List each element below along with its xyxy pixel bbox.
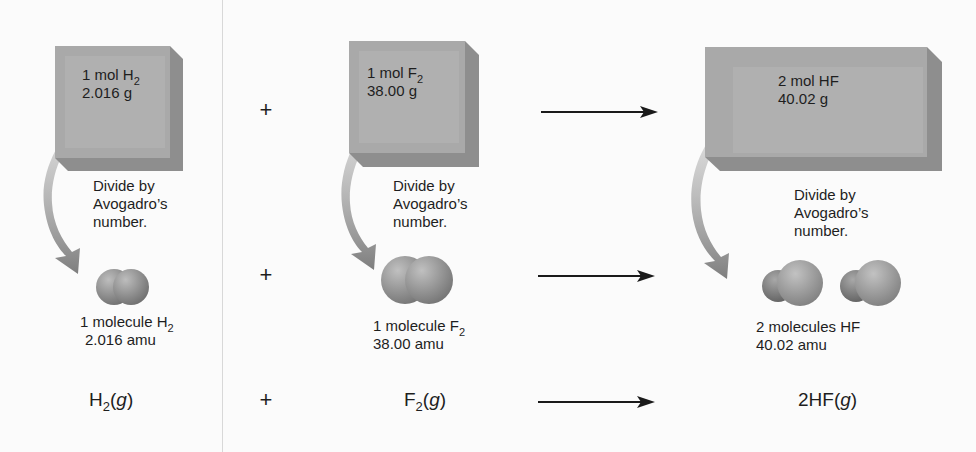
plus-sign-row1: + [256, 99, 276, 121]
plus-sign-row2: + [256, 264, 276, 286]
equation-term-hf: 2HF(g) [798, 389, 857, 411]
divide-note-f2: Divide by Avogadro’s number. [393, 177, 468, 231]
subscript: 2 [134, 75, 140, 87]
molecule-h2-icon [95, 266, 151, 308]
molecule-label-h2: 1 molecule H2 2.016 amu [80, 313, 174, 349]
molecule-mass: 2.016 amu [80, 331, 156, 348]
box-mol-label: 1 mol F [367, 64, 417, 81]
molecule-f2-icon [379, 253, 455, 307]
mole-box-hf: 2 mol HF 40.02 g [705, 47, 942, 171]
subscript: 2 [417, 73, 423, 85]
reaction-arrow-icon-row2 [537, 269, 657, 283]
molecule-mass: 40.02 amu [756, 336, 827, 353]
equation-term-f2: F2(g) [404, 389, 446, 411]
equation-term-h2: H2(g) [89, 389, 133, 411]
plus-sign-row3: + [256, 389, 276, 411]
divide-note-hf: Divide by Avogadro’s number. [794, 186, 869, 240]
box-mass-label: 2.016 g [82, 84, 132, 101]
box-mass-label: 40.02 g [778, 90, 828, 107]
reaction-arrow-icon-row1 [540, 105, 660, 119]
box-mol-label: 2 mol HF [778, 72, 839, 89]
mole-box-h2: 1 mol H2 2.016 g [55, 46, 183, 171]
column-divider [222, 0, 223, 452]
divide-note-h2: Divide by Avogadro’s number. [93, 177, 168, 231]
molecule-label-hf: 2 molecules HF 40.02 amu [756, 318, 860, 354]
box-mass-label: 38.00 g [367, 82, 417, 99]
reaction-arrow-icon-row3 [537, 395, 657, 409]
molecule-hf-icon [760, 258, 910, 310]
mole-box-f2: 1 mol F2 38.00 g [349, 41, 479, 167]
box-mol-label: 1 mol H [82, 66, 134, 83]
molecule-label-f2: 1 molecule F2 38.00 amu [373, 317, 465, 353]
molecule-mass: 38.00 amu [373, 335, 444, 352]
